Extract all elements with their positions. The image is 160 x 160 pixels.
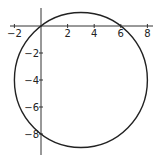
x-tick-label: 2 (64, 28, 70, 39)
y-tick-label: −6 (24, 102, 39, 113)
plot-area: −22468−2−4−6−8 (0, 0, 160, 160)
x-tick-label: −2 (7, 28, 22, 39)
x-tick-label: 4 (91, 28, 97, 39)
chart: −22468−2−4−6−8 (0, 0, 160, 160)
y-tick-label: −2 (24, 48, 39, 59)
y-tick-label: −4 (24, 75, 39, 86)
x-tick-label: 8 (144, 28, 150, 39)
x-tick-label: 6 (118, 28, 124, 39)
